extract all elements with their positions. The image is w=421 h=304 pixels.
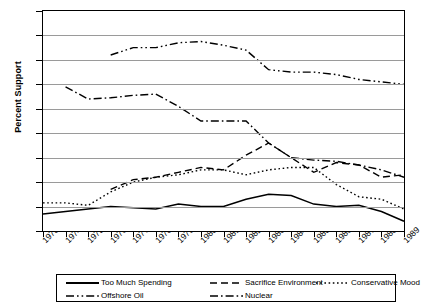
gridline (43, 109, 404, 110)
legend-label: Nuclear (245, 292, 273, 300)
gridline (43, 182, 404, 183)
legend-label: Offshore Oil (101, 292, 144, 300)
gridline (43, 207, 404, 208)
gridline (43, 35, 404, 36)
series-line (43, 194, 404, 221)
series-line (43, 167, 404, 209)
legend-label: Too Much Spending (101, 279, 172, 287)
legend-row: Too Much SpendingSacrifice EnvironmentCo… (57, 276, 395, 289)
gridline (43, 60, 404, 61)
gridline (43, 84, 404, 85)
gridline (43, 133, 404, 134)
legend-label: Sacrifice Environment (245, 279, 323, 287)
legend-key-icon (209, 290, 245, 301)
legend-item: Sacrifice Environment (209, 276, 323, 289)
chart-legend: Too Much SpendingSacrifice EnvironmentCo… (56, 274, 396, 302)
legend-key-icon (315, 277, 351, 288)
y-axis-title: Percent Support (13, 37, 23, 157)
legend-item: Nuclear (209, 289, 273, 302)
legend-key-icon (65, 290, 101, 301)
plot-area (42, 10, 405, 232)
series-lines (43, 11, 404, 231)
legend-item: Conservative Mood (315, 276, 420, 289)
legend-key-icon (65, 277, 101, 288)
gridline (43, 158, 404, 159)
legend-row: Offshore OilNuclear (57, 289, 395, 302)
legend-item: Offshore Oil (65, 289, 144, 302)
legend-key-icon (209, 277, 245, 288)
legend-label: Conservative Mood (351, 279, 420, 287)
series-line (111, 42, 404, 85)
legend-item: Too Much Spending (65, 276, 172, 289)
series-line (66, 87, 404, 177)
